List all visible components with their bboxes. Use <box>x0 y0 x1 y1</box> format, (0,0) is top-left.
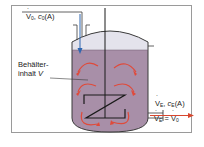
inlet-flow-symbol: V <box>26 12 31 21</box>
equation-lhs-symbol: V <box>154 114 159 123</box>
vessel-content-label: Behälter- inhalt V <box>18 60 48 78</box>
outlet-flow-symbol: V <box>155 99 160 108</box>
flow-balance-equation: VE = V0 <box>154 114 179 125</box>
equation-rhs-sub: 0 <box>176 117 179 123</box>
inlet-species: (A) <box>45 12 55 21</box>
outlet-label: VE, cE(A) <box>155 99 185 110</box>
vessel-headspace <box>72 31 148 50</box>
equation-rhs-symbol: V <box>171 114 176 123</box>
vessel-label-text: inhalt <box>18 69 38 78</box>
vessel-label-line2: inhalt V <box>18 69 48 78</box>
equation-equals: = <box>162 114 171 123</box>
vessel-liquid <box>72 50 148 132</box>
outlet-species: (A) <box>175 99 185 108</box>
outlet-flow-sub: E <box>160 102 163 108</box>
inlet-label: V0, c0(A) <box>26 12 55 23</box>
vessel-volume-symbol: V <box>38 69 43 78</box>
inlet-flow-sub: 0 <box>31 15 34 21</box>
vessel-label-line1: Behälter- <box>18 60 48 69</box>
outlet-arrowhead <box>188 113 194 118</box>
